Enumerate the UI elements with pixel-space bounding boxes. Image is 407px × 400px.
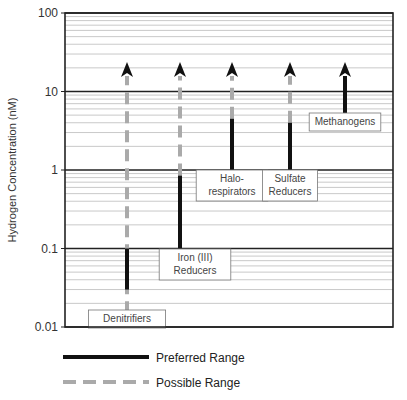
y-axis-ticks: 1001010.10.01 — [35, 6, 65, 334]
hydrogen-concentration-chart: 1001010.10.01 DenitrifiersIron (III)Redu… — [0, 0, 407, 400]
arrow-up-icon — [174, 62, 186, 77]
arrow-up-icon — [121, 62, 133, 77]
series-label: Methanogens — [315, 116, 376, 127]
series-sulfate-reducers — [284, 62, 296, 170]
series-label: Denitrifiers — [103, 313, 151, 324]
series-label: Halo- — [220, 173, 244, 184]
y-tick-label: 0.01 — [35, 320, 59, 334]
y-axis-title: Hydrogen Concentration (nM) — [6, 98, 18, 243]
series-label: Reducers — [174, 265, 217, 276]
y-tick-label: 0.1 — [41, 242, 58, 256]
series-label: Reducers — [269, 186, 312, 197]
series-label: respirators — [208, 186, 255, 197]
y-tick-label: 1 — [51, 163, 58, 177]
y-tick-label: 100 — [38, 6, 58, 20]
series-label: Sulfate — [274, 173, 306, 184]
arrow-up-icon — [339, 62, 351, 77]
legend-item: Possible Range — [63, 376, 240, 390]
series-halo-respirators — [226, 62, 238, 170]
series-iron-iii-reducers — [174, 62, 186, 249]
legend: Preferred RangePossible Range — [63, 351, 245, 390]
arrow-up-icon — [284, 62, 296, 77]
legend-item: Preferred Range — [63, 351, 245, 365]
legend-label: Preferred Range — [156, 351, 245, 365]
y-tick-label: 10 — [45, 85, 59, 99]
arrow-up-icon — [226, 62, 238, 77]
series-label: Iron (III) — [177, 252, 212, 263]
series-methanogens — [339, 62, 351, 115]
series-labels: DenitrifiersIron (III)ReducersHalo-respi… — [88, 113, 380, 328]
legend-label: Possible Range — [156, 376, 240, 390]
